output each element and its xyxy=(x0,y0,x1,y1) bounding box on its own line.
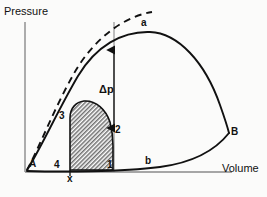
point-label-b-upper: B xyxy=(231,127,238,137)
point-label-a: a xyxy=(141,18,147,28)
point-label-a-origin: A xyxy=(29,159,36,169)
y-axis-label: Pressure xyxy=(4,6,48,17)
x-tick-label: x xyxy=(67,174,73,184)
delta-p-label: Δp xyxy=(99,84,114,95)
corner-label-4: 4 xyxy=(54,160,60,170)
corner-label-2: 2 xyxy=(115,125,121,135)
pv-diagram-figure: Pressure Volume a B b A Δp 3 2 4 1 x xyxy=(0,0,267,197)
x-axis-label: Volume xyxy=(222,163,259,174)
corner-label-1: 1 xyxy=(107,160,113,170)
point-label-b-lower: b xyxy=(145,156,151,166)
corner-label-3: 3 xyxy=(59,111,65,121)
solid-pv-curve xyxy=(27,32,229,170)
